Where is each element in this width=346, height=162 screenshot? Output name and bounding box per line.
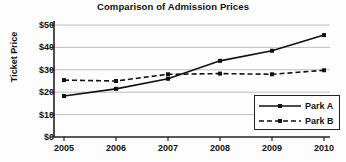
data-series-layer xyxy=(62,33,326,98)
series-line-park-a xyxy=(64,35,324,96)
data-point-marker xyxy=(270,72,274,76)
series-line-park-b xyxy=(64,70,324,81)
plot-area xyxy=(0,0,346,162)
data-point-marker xyxy=(218,59,222,63)
data-point-marker xyxy=(62,94,66,98)
legend-label-1: Park B xyxy=(305,116,334,126)
legend-item-0: Park A xyxy=(255,99,341,113)
data-point-marker xyxy=(322,68,326,72)
data-point-marker xyxy=(322,33,326,37)
data-point-marker xyxy=(114,87,118,91)
data-point-marker xyxy=(166,72,170,76)
data-point-marker xyxy=(114,79,118,83)
data-point-marker xyxy=(166,77,170,81)
chart-figure: Comparison of Admission Prices Ticket Pr… xyxy=(0,0,346,162)
data-point-marker xyxy=(270,49,274,53)
data-point-marker xyxy=(218,72,222,76)
legend-label-0: Park A xyxy=(305,101,333,111)
legend: Park A Park B xyxy=(254,95,340,130)
data-point-marker xyxy=(62,78,66,82)
legend-line-sample-solid xyxy=(258,100,302,112)
legend-item-1: Park B xyxy=(255,114,341,128)
legend-line-sample-dashed xyxy=(258,115,302,127)
